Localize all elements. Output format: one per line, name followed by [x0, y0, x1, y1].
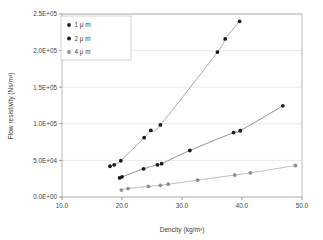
x-tick-label: 10.0	[56, 202, 69, 209]
y-tick-label: 5.0E+04	[33, 157, 57, 164]
legend-label: 2 μ m	[75, 35, 91, 43]
data-point	[160, 162, 164, 166]
legend-box	[61, 16, 131, 60]
data-point	[142, 136, 146, 140]
data-point	[112, 163, 116, 167]
data-point	[120, 188, 124, 192]
y-tick-label: 1.0E+05	[33, 120, 57, 127]
data-point	[149, 128, 153, 132]
data-point	[147, 184, 151, 188]
data-point	[223, 37, 227, 41]
data-point	[119, 159, 123, 163]
data-point	[249, 171, 253, 175]
data-point	[108, 164, 112, 168]
data-point	[238, 19, 242, 23]
legend-label: 4 μ m	[75, 48, 91, 56]
x-tick-label: 30.0	[176, 202, 189, 209]
data-point	[232, 131, 236, 135]
data-point	[216, 50, 220, 54]
data-point	[238, 129, 242, 133]
data-point	[188, 149, 192, 153]
legend-marker-icon	[67, 50, 71, 54]
data-point	[281, 104, 285, 108]
x-tick-label: 50.0	[296, 202, 309, 209]
legend-marker-icon	[67, 37, 71, 41]
data-point	[156, 163, 160, 167]
x-tick-label: 20.0	[116, 202, 129, 209]
x-axis-title: Dencity (kg/m³)	[160, 226, 205, 234]
data-point	[159, 183, 163, 187]
legend-marker-icon	[67, 23, 71, 27]
y-axis-title: Flow resistivity (Ns/m³)	[7, 73, 15, 140]
y-tick-label: 1.5E+05	[33, 84, 57, 91]
data-point	[120, 175, 124, 179]
data-point	[159, 123, 163, 127]
chart-canvas: 10.020.030.040.050.0 0.0E+005.0E+041.0E+…	[0, 0, 323, 240]
flow-resistivity-chart: 10.020.030.040.050.0 0.0E+005.0E+041.0E+…	[0, 0, 323, 240]
y-tick-label: 2.5E+05	[33, 10, 57, 17]
data-point	[166, 182, 170, 186]
chart-legend[interactable]: 1 μ m2 μ m4 μ m	[61, 16, 131, 60]
data-point	[196, 178, 200, 182]
y-tick-label: 0.0E+00	[33, 193, 57, 200]
data-point	[233, 173, 237, 177]
data-point	[294, 164, 298, 168]
legend-label: 1 μ m	[75, 21, 91, 29]
data-point	[142, 167, 146, 171]
y-tick-label: 2.0E+05	[33, 47, 57, 54]
data-point	[126, 187, 130, 191]
x-tick-label: 40.0	[236, 202, 249, 209]
